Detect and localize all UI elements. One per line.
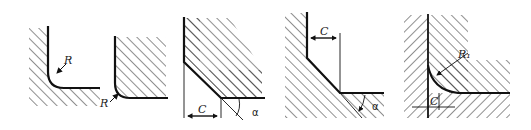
radius-label: R xyxy=(63,54,72,67)
panel-chamfer-internal: C α xyxy=(285,12,384,118)
panel-fillet-mating: R₁ C xyxy=(404,14,510,118)
hatched-material-bottom xyxy=(428,93,510,118)
corner-treatment-diagram: R R C α C α xyxy=(0,0,531,130)
hatched-material xyxy=(29,28,100,106)
panel-chamfer-external: C α xyxy=(184,17,265,120)
radius-label: R₁ xyxy=(457,48,471,61)
panel-fillet-external: R xyxy=(29,26,100,106)
length-label: C xyxy=(430,95,439,108)
chamfer-length-label: C xyxy=(198,103,207,116)
radius-label: R xyxy=(99,97,108,110)
panel-fillet-internal: R xyxy=(99,36,168,110)
chamfer-angle-label: α xyxy=(252,107,259,118)
hatched-material-left xyxy=(404,15,428,118)
chamfer-length-label: C xyxy=(320,25,329,38)
hatched-material xyxy=(285,13,384,118)
fillet-edge xyxy=(48,26,100,88)
chamfer-angle-label: α xyxy=(372,101,379,112)
